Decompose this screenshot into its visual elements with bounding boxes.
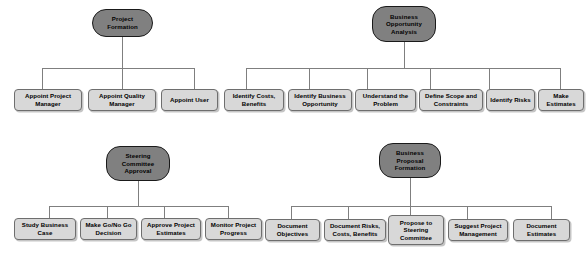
connector-drop-2-project-formation — [122, 68, 123, 89]
leaf-node-make-estimates[interactable]: Make Estimates — [538, 89, 584, 111]
connector-drop-1-project-formation — [42, 68, 43, 89]
connector-drop-5-business-proposal-formation — [551, 206, 552, 219]
leaf-node-approve-project-estimates[interactable]: Approve Project Estimates — [141, 218, 201, 240]
root-label-business-opportunity-analysis: Business Opportunity Analysis — [373, 13, 435, 36]
leaf-node-appoint-user[interactable]: Appoint User — [161, 89, 218, 111]
root-label-business-proposal-formation: Business Proposal Formation — [380, 149, 440, 172]
connector-drop-6-business-opportunity-analysis — [560, 68, 561, 89]
leaf-label-make-estimates: Make Estimates — [539, 92, 583, 107]
leaf-label-understand-the-problem: Understand the Problem — [356, 92, 415, 107]
leaf-label-identify-costs-benefits: Identify Costs, Benefits — [225, 92, 283, 107]
leaf-label-study-business-case: Study Business Case — [15, 221, 75, 236]
root-node-business-opportunity-analysis[interactable]: Business Opportunity Analysis — [372, 6, 436, 42]
connector-drop-3-business-opportunity-analysis — [367, 68, 368, 89]
leaf-node-monitor-project-progress[interactable]: Monitor Project Progress — [205, 218, 262, 240]
root-label-project-formation: Project Formation — [93, 15, 152, 30]
leaf-label-suggest-project-management: Suggest Project Management — [449, 222, 507, 237]
connector-root-stem-steering-committee-approval — [138, 181, 139, 206]
leaf-label-appoint-quality-manager: Appoint Quality Manager — [89, 92, 155, 107]
leaf-node-propose-to-steering-committee[interactable]: Propose to Steering Committee — [388, 215, 444, 245]
connector-drop-3-steering-committee-approval — [164, 206, 165, 218]
leaf-node-document-risks-costs-benefits[interactable]: Document Risks, Costs, Benefits — [324, 219, 386, 241]
connector-root-stem-business-proposal-formation — [410, 178, 411, 206]
leaf-label-document-objectives: Document Objectives — [266, 222, 319, 237]
leaf-label-document-estimates: Document Estimates — [514, 222, 569, 237]
leaf-node-document-objectives[interactable]: Document Objectives — [265, 219, 320, 241]
leaf-label-make-go-no-go-decision: Make Go/No Go Decision — [81, 221, 136, 236]
root-label-steering-committee-approval: Steering Committee Approval — [107, 152, 169, 175]
leaf-label-define-scope-and-constraints: Define Scope and Constraints — [420, 92, 482, 107]
leaf-node-identify-risks[interactable]: Identify Risks — [486, 89, 535, 111]
connector-drop-2-business-opportunity-analysis — [309, 68, 310, 89]
leaf-label-identify-business-opportunity: Identify Business Opportunity — [289, 92, 351, 107]
leaf-label-identify-risks: Identify Risks — [487, 96, 534, 104]
diagram-canvas: Project Formation Appoint Project Manage… — [0, 0, 587, 261]
leaf-node-appoint-quality-manager[interactable]: Appoint Quality Manager — [88, 89, 156, 111]
connector-drop-3-business-proposal-formation — [410, 206, 411, 215]
connector-drop-4-business-opportunity-analysis — [430, 68, 431, 89]
connector-bus-business-proposal-formation — [291, 206, 551, 207]
leaf-node-document-estimates[interactable]: Document Estimates — [513, 219, 570, 241]
leaf-node-define-scope-and-constraints[interactable]: Define Scope and Constraints — [419, 89, 483, 111]
root-node-project-formation[interactable]: Project Formation — [92, 9, 153, 37]
connector-root-stem-business-opportunity-analysis — [404, 42, 405, 68]
leaf-node-suggest-project-management[interactable]: Suggest Project Management — [448, 219, 508, 241]
leaf-label-appoint-user: Appoint User — [162, 96, 217, 104]
connector-drop-1-business-proposal-formation — [291, 206, 292, 219]
leaf-node-make-go-no-go-decision[interactable]: Make Go/No Go Decision — [80, 218, 137, 240]
root-node-steering-committee-approval[interactable]: Steering Committee Approval — [106, 146, 170, 181]
connector-drop-3-project-formation — [194, 68, 195, 89]
connector-root-stem-project-formation — [122, 37, 123, 68]
leaf-node-understand-the-problem[interactable]: Understand the Problem — [355, 89, 416, 111]
connector-drop-1-business-opportunity-analysis — [246, 68, 247, 89]
leaf-node-identify-business-opportunity[interactable]: Identify Business Opportunity — [288, 89, 352, 111]
leaf-label-approve-project-estimates: Approve Project Estimates — [142, 221, 200, 236]
root-node-business-proposal-formation[interactable]: Business Proposal Formation — [379, 143, 441, 178]
connector-drop-4-business-proposal-formation — [467, 206, 468, 219]
leaf-label-appoint-project-manager: Appoint Project Manager — [15, 92, 81, 107]
leaf-label-monitor-project-progress: Monitor Project Progress — [206, 221, 261, 236]
leaf-label-document-risks-costs-benefits: Document Risks, Costs, Benefits — [325, 222, 385, 237]
leaf-label-propose-to-steering-committee: Propose to Steering Committee — [389, 219, 443, 242]
connector-drop-2-steering-committee-approval — [107, 206, 108, 218]
connector-bus-project-formation — [42, 68, 194, 69]
connector-bus-business-opportunity-analysis — [246, 68, 560, 69]
connector-drop-2-business-proposal-formation — [348, 206, 349, 219]
connector-drop-1-steering-committee-approval — [49, 206, 50, 218]
leaf-node-identify-costs-benefits[interactable]: Identify Costs, Benefits — [224, 89, 284, 111]
connector-drop-5-business-opportunity-analysis — [489, 68, 490, 89]
connector-bus-steering-committee-approval — [49, 206, 228, 207]
leaf-node-appoint-project-manager[interactable]: Appoint Project Manager — [14, 89, 82, 111]
leaf-node-study-business-case[interactable]: Study Business Case — [14, 218, 76, 240]
connector-drop-4-steering-committee-approval — [228, 206, 229, 218]
